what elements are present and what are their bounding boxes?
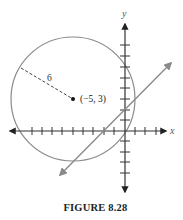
y-axis-label: y	[121, 8, 127, 19]
radius-label: 6	[47, 73, 52, 83]
secant-line	[60, 63, 171, 175]
coordinate-figure: (−5, 3) 6 x y	[0, 0, 183, 220]
center-point	[71, 97, 75, 101]
center-label: (−5, 3)	[80, 94, 106, 105]
x-axis-label: x	[169, 125, 175, 136]
figure-caption: FIGURE 8.28	[0, 202, 183, 213]
